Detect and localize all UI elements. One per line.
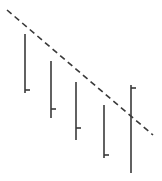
vertical-segment-2	[51, 61, 56, 118]
vertical-segment-4	[104, 105, 109, 158]
vertical-segment-3	[76, 82, 81, 140]
vertical-segment-1	[25, 34, 30, 93]
vertical-segment-5	[131, 85, 136, 173]
diagram-canvas	[0, 0, 162, 181]
vertical-lines-group	[25, 34, 136, 173]
